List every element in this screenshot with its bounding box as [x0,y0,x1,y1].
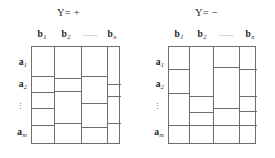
column-divider-2-right [213,47,214,143]
block-divider [32,108,54,109]
block-divider [213,125,239,126]
row-label-ellipsis-right: ⋮ [154,102,161,110]
block-divider [213,108,239,109]
column-divider-1-left [54,47,55,143]
row-label-a2-right: a2 [156,79,164,90]
column-header-ellipsis-right: ········ [218,32,233,40]
block-divider [81,103,107,104]
block-divider [107,96,121,97]
block-divider [107,84,121,85]
block-divider [239,69,257,70]
block-divider [169,69,189,70]
block-divider [54,123,81,124]
panel-title-y-plus: Y= + [0,7,137,18]
block-divider [169,93,189,94]
column-divider-3-left [107,47,108,143]
panel-title-y-minus: Y= − [138,7,275,18]
block-divider [239,96,257,97]
column-header-b2-left: b2 [62,29,71,40]
block-divider [189,125,213,126]
block-divider [189,112,213,113]
panel-y-plus: Y= + b1 b2 ········ bn a1 a2 ⋮ am [0,0,137,158]
block-divider [189,96,213,97]
block-divider [32,76,54,77]
column-divider-3-right [239,47,240,143]
column-divider-2-left [81,47,82,143]
column-header-b1-left: b1 [38,29,47,40]
column-header-ellipsis-left: ········ [82,32,97,40]
figure-container: Y= + b1 b2 ········ bn a1 a2 ⋮ am [0,0,275,158]
panel-y-minus: Y= − b1 b2 ········ bn a1 a2 ⋮ am [138,0,275,158]
column-divider-1-right [189,47,190,143]
row-label-am-left: am [17,127,27,138]
row-label-am-right: am [154,127,164,138]
block-divider [32,92,54,93]
block-divider [54,78,81,79]
block-divider [213,67,239,68]
column-header-b1-right: b1 [175,29,184,40]
column-header-bn-right: bn [246,29,255,40]
block-divider [32,125,54,126]
row-label-a2-left: a2 [19,79,27,90]
block-divider [54,91,81,92]
row-label-a1-left: a1 [19,57,27,68]
block-divider [81,127,107,128]
partition-table-y-plus [31,46,120,144]
block-divider [169,125,189,126]
row-label-a1-right: a1 [156,57,164,68]
block-divider [107,123,121,124]
block-divider [81,76,107,77]
column-header-bn-left: bn [108,29,117,40]
block-divider [239,125,257,126]
column-header-b2-right: b2 [198,29,207,40]
block-divider [239,111,257,112]
partition-table-y-minus [168,46,256,144]
row-label-ellipsis-left: ⋮ [17,102,24,110]
